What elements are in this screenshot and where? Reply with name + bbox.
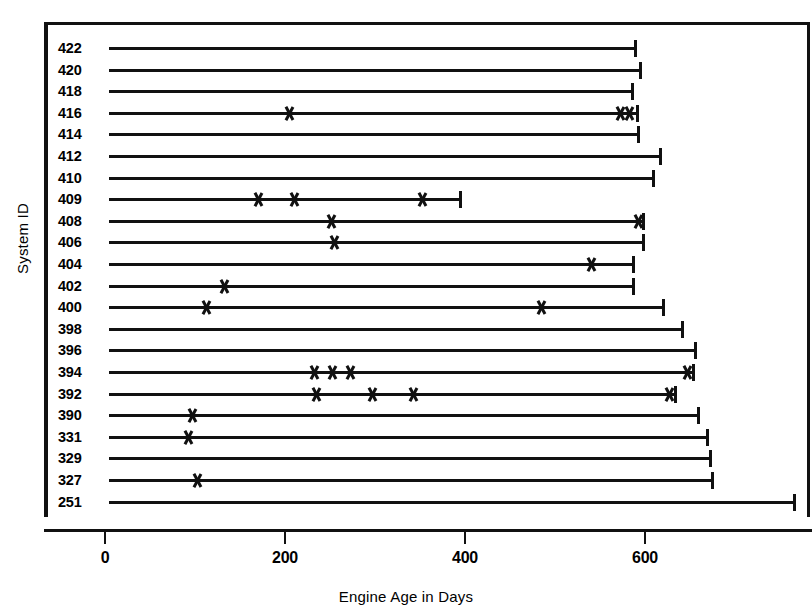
bar-end-cap xyxy=(652,170,655,187)
bar-row: 404 xyxy=(48,253,812,275)
row-label-system-id: 420 xyxy=(58,59,102,81)
row-label-system-id: 392 xyxy=(58,383,102,405)
bar-row: 420 xyxy=(48,59,812,81)
event-marker-x-icon xyxy=(408,387,419,402)
row-label-system-id: 404 xyxy=(58,253,102,275)
event-marker-x-icon xyxy=(284,106,295,121)
bar-end-cap xyxy=(662,299,665,316)
bar-line xyxy=(109,263,632,266)
bar-line xyxy=(109,371,692,374)
bar-line xyxy=(109,349,694,352)
event-marker-x-icon xyxy=(182,430,193,445)
bar-row: 409 xyxy=(48,188,812,210)
bar-end-cap xyxy=(642,234,645,251)
event-marker-x-icon xyxy=(201,300,212,315)
row-label-system-id: 331 xyxy=(58,426,102,448)
x-axis-tick-label: 0 xyxy=(70,549,140,567)
row-label-system-id: 394 xyxy=(58,361,102,383)
x-axis-line xyxy=(44,529,812,532)
bar-end-cap xyxy=(459,191,462,208)
bar-end-cap xyxy=(639,62,642,79)
bar-line xyxy=(109,198,459,201)
x-axis-tick xyxy=(284,532,287,544)
event-marker-x-icon xyxy=(327,365,338,380)
event-marker-x-icon xyxy=(586,257,597,272)
bar-row: 408 xyxy=(48,210,812,232)
bar-row: 416 xyxy=(48,102,812,124)
bar-row: 406 xyxy=(48,231,812,253)
event-marker-x-icon xyxy=(187,408,198,423)
event-marker-x-icon xyxy=(367,387,378,402)
event-marker-x-icon xyxy=(253,192,264,207)
bar-end-cap xyxy=(659,148,662,165)
row-label-system-id: 400 xyxy=(58,296,102,318)
x-axis-tick-label: 600 xyxy=(610,549,680,567)
row-label-system-id: 396 xyxy=(58,339,102,361)
bar-end-cap xyxy=(631,83,634,100)
bar-end-cap xyxy=(634,40,637,57)
bar-line xyxy=(109,285,632,288)
bar-line xyxy=(109,177,652,180)
row-label-system-id: 398 xyxy=(58,318,102,340)
x-axis-title: Engine Age in Days xyxy=(0,588,812,605)
bar-end-cap xyxy=(697,407,700,424)
x-axis-tick-label: 400 xyxy=(430,549,500,567)
event-marker-x-icon xyxy=(329,235,340,250)
row-label-system-id: 409 xyxy=(58,188,102,210)
bar-end-cap xyxy=(694,342,697,359)
x-axis-tick xyxy=(464,532,467,544)
bar-row: 412 xyxy=(48,145,812,167)
event-marker-x-icon xyxy=(664,387,675,402)
row-label-system-id: 416 xyxy=(58,102,102,124)
bar-row: 402 xyxy=(48,275,812,297)
event-marker-x-icon xyxy=(536,300,547,315)
row-label-system-id: 327 xyxy=(58,469,102,491)
row-label-system-id: 251 xyxy=(58,491,102,513)
row-label-system-id: 414 xyxy=(58,123,102,145)
event-marker-x-icon xyxy=(417,192,428,207)
bar-row: 396 xyxy=(48,339,812,361)
row-label-system-id: 418 xyxy=(58,80,102,102)
bar-end-cap xyxy=(632,278,635,295)
bar-line xyxy=(109,220,642,223)
row-label-system-id: 412 xyxy=(58,145,102,167)
y-axis-title: System ID xyxy=(14,179,31,299)
bar-line xyxy=(109,393,674,396)
horizontal-bar-chart: System ID 422420418416414412410409408406… xyxy=(0,0,812,615)
bar-end-cap xyxy=(637,126,640,143)
event-marker-x-icon xyxy=(325,214,336,229)
bar-row: 410 xyxy=(48,167,812,189)
bar-row: 392 xyxy=(48,383,812,405)
event-marker-x-icon xyxy=(289,192,300,207)
bar-row: 390 xyxy=(48,404,812,426)
x-axis-tick-label: 200 xyxy=(250,549,320,567)
bar-row: 251 xyxy=(48,491,812,513)
row-label-system-id: 402 xyxy=(58,275,102,297)
bar-end-cap xyxy=(706,429,709,446)
bar-line xyxy=(109,457,709,460)
bar-line xyxy=(109,112,636,115)
bar-line xyxy=(109,69,639,72)
row-label-system-id: 406 xyxy=(58,231,102,253)
x-axis-tick xyxy=(104,532,107,544)
bar-row: 400 xyxy=(48,296,812,318)
bar-line xyxy=(109,155,659,158)
bar-line xyxy=(109,47,634,50)
bar-line xyxy=(109,328,681,331)
bar-end-cap xyxy=(709,450,712,467)
event-marker-x-icon xyxy=(632,214,643,229)
bar-line xyxy=(109,241,642,244)
bar-row: 418 xyxy=(48,80,812,102)
bar-end-cap xyxy=(711,472,714,489)
row-label-system-id: 390 xyxy=(58,404,102,426)
bar-end-cap xyxy=(793,494,796,511)
bar-line xyxy=(109,306,662,309)
row-label-system-id: 329 xyxy=(58,447,102,469)
row-label-system-id: 422 xyxy=(58,37,102,59)
plot-area: 4224204184164144124104094084064044024003… xyxy=(44,22,810,517)
bar-row: 327 xyxy=(48,469,812,491)
event-marker-x-icon xyxy=(682,365,693,380)
event-marker-x-icon xyxy=(624,106,635,121)
bar-line xyxy=(109,133,637,136)
bar-end-cap xyxy=(681,321,684,338)
